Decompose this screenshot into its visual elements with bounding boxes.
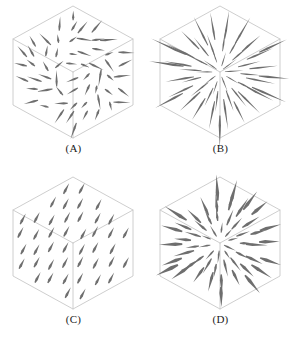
field-arrow <box>118 60 132 67</box>
field-arrow <box>64 212 70 223</box>
field-arrow <box>77 38 94 41</box>
field-arrow <box>77 211 83 222</box>
field-arrow <box>77 256 83 267</box>
cube-inner-edge <box>13 39 73 72</box>
field-arrow <box>192 98 206 120</box>
field-arrow <box>66 62 77 64</box>
field-arrow <box>243 191 257 210</box>
field-arrow <box>17 227 23 238</box>
field-arrow <box>78 51 92 57</box>
field-arrow <box>45 45 47 56</box>
field-arrow <box>48 241 54 252</box>
field-arrow <box>14 63 27 67</box>
field-arrow <box>186 245 200 247</box>
field-arrow <box>196 71 212 72</box>
panel-a: (A) <box>0 0 147 171</box>
field-arrow <box>225 229 232 237</box>
field-arrow <box>161 225 182 232</box>
field-arrow <box>33 229 39 240</box>
field-arrow <box>70 102 78 110</box>
field-arrow <box>110 243 116 254</box>
field-arrow <box>43 61 49 71</box>
panel-label-d: (D) <box>147 313 294 325</box>
field-arrow <box>109 102 112 111</box>
field-arrow <box>118 51 134 53</box>
field-arrow <box>95 109 100 120</box>
field-arrow <box>232 270 240 286</box>
field-arrow <box>218 251 220 264</box>
field-arrow <box>213 81 218 94</box>
field-arrow <box>118 88 129 97</box>
field-arrow <box>56 70 58 87</box>
field-arrow <box>57 34 59 43</box>
field-arrow <box>38 74 51 80</box>
field-arrow <box>244 275 260 293</box>
field-arrow <box>81 102 87 109</box>
field-arrow <box>123 227 129 238</box>
field-arrow <box>85 84 90 95</box>
field-arrow <box>166 76 194 81</box>
field-arrow <box>224 11 229 39</box>
field-arrow <box>259 40 287 53</box>
field-arrow <box>242 35 260 51</box>
field-arrow <box>235 17 251 43</box>
field-arrow <box>63 226 69 237</box>
field-arrow <box>95 86 97 94</box>
field-arrow <box>62 242 68 253</box>
field-arrow <box>184 232 201 237</box>
field-arrow <box>236 231 250 237</box>
field-arrow <box>34 212 40 223</box>
field-arrow <box>199 245 211 248</box>
field-arrow <box>49 214 55 225</box>
field-arrow <box>162 257 182 265</box>
cube-inner-edge <box>13 210 73 243</box>
field-arrow <box>187 209 201 223</box>
field-arrow <box>77 198 83 209</box>
field-arrow <box>27 77 42 82</box>
field-arrow <box>203 258 212 273</box>
field-arrow <box>109 256 115 267</box>
cube-inner-edge <box>73 39 133 72</box>
cube-inner-edge <box>160 210 220 243</box>
field-arrow <box>221 52 226 66</box>
field-arrow <box>70 53 78 55</box>
field-arrow <box>34 257 40 268</box>
field-arrow <box>200 197 209 216</box>
field-arrow <box>123 257 129 268</box>
field-arrow <box>108 214 114 225</box>
field-arrow <box>27 59 36 66</box>
field-arrow <box>210 225 217 236</box>
field-arrow <box>151 38 186 55</box>
panel-label-c: (C) <box>0 313 147 325</box>
field-arrow <box>97 94 100 109</box>
field-arrow <box>205 210 212 224</box>
field-arrow <box>113 101 130 103</box>
field-arrow <box>58 17 60 31</box>
field-arrow <box>155 93 183 108</box>
field-arrow <box>215 91 218 112</box>
field-arrow <box>24 100 38 104</box>
field-arrow <box>54 102 68 104</box>
field-arrow <box>259 240 280 243</box>
field-arrow <box>238 91 261 113</box>
field-arrow <box>39 33 51 45</box>
field-arrow <box>260 257 281 265</box>
field-arrow <box>92 48 105 50</box>
field-arrow <box>223 260 228 277</box>
field-arrow <box>114 75 131 78</box>
field-arrow <box>208 272 214 292</box>
cube-diagram-a <box>0 0 147 147</box>
field-arrow <box>207 34 215 56</box>
field-arrow <box>34 272 40 283</box>
field-arrow <box>94 213 100 224</box>
field-arrow <box>174 238 191 241</box>
field-arrow <box>77 21 87 33</box>
field-arrow <box>50 197 56 208</box>
field-arrow <box>249 66 277 69</box>
field-arrow <box>89 63 104 70</box>
field-arrow <box>179 69 201 71</box>
field-arrow <box>16 76 29 82</box>
field-arrow <box>79 289 85 300</box>
field-arrow <box>29 36 36 47</box>
field-arrow <box>72 11 74 20</box>
